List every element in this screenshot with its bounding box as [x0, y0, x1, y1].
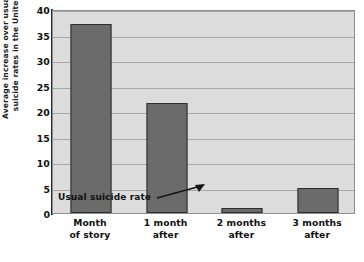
y-tick-label: 0: [24, 209, 50, 220]
bar: [298, 188, 339, 214]
y-axis-tick-labels: 4035302520151050: [24, 0, 50, 214]
bar-chart-figure: Average increase over usual monthly suic…: [0, 0, 364, 262]
x-axis-tick-labels: Monthof story1 monthafter2 monthsafter3 …: [52, 217, 355, 247]
bar-slot: [53, 11, 129, 213]
x-tick-label-line: of story: [52, 229, 128, 241]
x-tick-label: Monthof story: [52, 217, 128, 240]
y-axis-title: Average increase over usual monthly suic…: [1, 0, 20, 133]
x-tick-label-line: 1 month: [128, 217, 204, 229]
x-tick-label: 3 monthsafter: [279, 217, 355, 240]
usual-suicide-rate-annotation: Usual suicide rate: [58, 192, 151, 202]
bar: [222, 208, 263, 213]
y-tick-label: 25: [24, 81, 50, 92]
y-tick-label: 30: [24, 56, 50, 67]
x-tick-label: 2 monthsafter: [204, 217, 280, 240]
plot-area: [52, 10, 355, 214]
bar-slot: [280, 11, 355, 213]
y-tick-label: 15: [24, 132, 50, 143]
x-tick-label-line: after: [128, 229, 204, 241]
bar-slot: [205, 11, 281, 213]
x-tick-label-line: 2 months: [204, 217, 280, 229]
y-tick-label: 5: [24, 183, 50, 194]
y-axis-title-line-1: Average increase over usual monthly: [1, 0, 11, 133]
bar-series: [53, 11, 354, 213]
bar-slot: [129, 11, 205, 213]
x-tick-label-line: after: [279, 229, 355, 241]
y-tick-label: 20: [24, 107, 50, 118]
y-tick-label: 35: [24, 30, 50, 41]
x-tick-label: 1 monthafter: [128, 217, 204, 240]
y-axis-title-line-2: suicide rates in the United States: [11, 0, 21, 133]
y-tick-label: 40: [24, 5, 50, 16]
bar: [70, 24, 111, 213]
figure-caption: [30, 254, 350, 262]
y-tick-label: 10: [24, 158, 50, 169]
x-tick-label-line: 3 months: [279, 217, 355, 229]
x-tick-label-line: Month: [52, 217, 128, 229]
x-tick-label-line: after: [204, 229, 280, 241]
bar: [146, 103, 187, 213]
